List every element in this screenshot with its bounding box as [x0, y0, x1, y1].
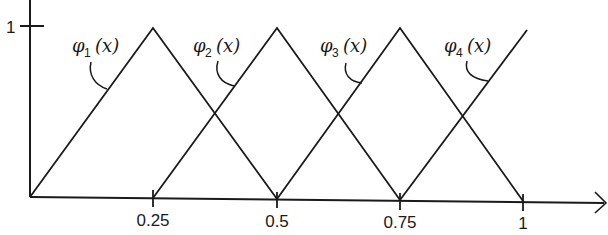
- leader-phi-3: [345, 63, 362, 83]
- svg-text:(x): (x): [343, 35, 367, 56]
- x-tick-label-0.75: 0.75: [383, 213, 416, 232]
- x-tick-label-1: 1: [518, 214, 527, 233]
- label-phi-3: φ 3 (x): [320, 35, 367, 60]
- svg-text:(x): (x): [216, 35, 240, 56]
- leader-phi-1: [90, 62, 107, 89]
- y-tick-label-1: 1: [6, 18, 15, 37]
- label-phi-2: φ 2 (x): [193, 35, 240, 60]
- x-tick-label-0.5: 0.5: [265, 212, 289, 231]
- svg-text:2: 2: [205, 46, 212, 60]
- x-tick-label-0.25: 0.25: [136, 211, 169, 230]
- svg-text:(x): (x): [467, 35, 491, 56]
- leader-phi-2: [217, 61, 234, 86]
- label-phi-4: φ 4 (x): [444, 35, 491, 60]
- leader-phi-4: [466, 61, 488, 81]
- label-phi-1: φ 1 (x): [72, 35, 119, 60]
- svg-text:4: 4: [456, 46, 463, 60]
- svg-text:1: 1: [84, 46, 91, 60]
- basis-functions-chart: 1 0.25 0.5 0.75 1 φ 1 (x) φ 2 (x) φ 3 (x…: [0, 0, 608, 235]
- x-axis: [30, 197, 604, 203]
- svg-text:(x): (x): [95, 35, 119, 56]
- svg-text:3: 3: [332, 46, 339, 60]
